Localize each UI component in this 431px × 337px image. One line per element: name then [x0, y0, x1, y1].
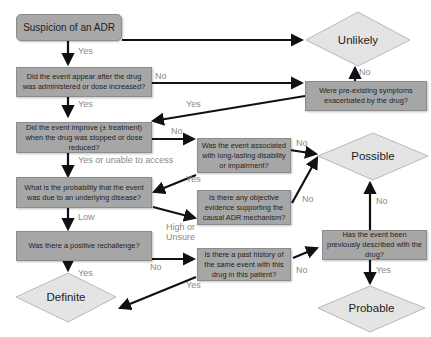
temporal-question-box: Did the event appear after the drug was …	[16, 67, 152, 97]
start-node-text: Suspicion of an ADR	[23, 23, 115, 33]
rechallenge-question-text: Was there a positive rechallenge?	[28, 241, 139, 251]
history-question-text: Is there a past history of the same even…	[201, 250, 287, 280]
definite-outcome: Definite	[16, 287, 116, 307]
label-longlasting-no: No	[296, 138, 308, 148]
described-question-box: Has the event been previously described …	[322, 230, 427, 260]
label-longlasting-yes: Yes	[186, 174, 201, 184]
label-objective-no: No	[302, 194, 314, 204]
temporal-question-text: Did the event appear after the drug was …	[20, 72, 148, 92]
label-underlying-low: Low	[78, 212, 95, 222]
label-rechallenge-yes: Yes	[78, 268, 93, 278]
underlying-question-text: What is the probability that the event w…	[20, 183, 148, 203]
arrow-history-to-definite	[120, 277, 196, 308]
history-question-box: Is there a past history of the same even…	[197, 248, 291, 281]
label-history-no: No	[296, 265, 308, 275]
objective-question-box: Is there any objective evidence supporti…	[197, 190, 291, 225]
label-underlying-high: High or Unsure	[166, 222, 200, 242]
objective-question-text: Is there any objective evidence supporti…	[201, 193, 287, 223]
possible-outcome: Possible	[318, 146, 428, 166]
label-dechallenge-yes: Yes or unable to access	[78, 155, 173, 165]
label-preexisting-yes: Yes	[186, 99, 201, 109]
preexisting-question-text: Were pre-existing symptoms exacerbated b…	[309, 86, 423, 106]
label-history-yes: Yes	[186, 280, 201, 290]
dechallenge-question-text: Did the event improve (± treatment) when…	[20, 123, 148, 153]
start-node: Suspicion of an ADR	[16, 14, 122, 41]
arrow-preexisting-to-dechallenge	[153, 96, 305, 121]
dechallenge-question-box: Did the event improve (± treatment) when…	[16, 122, 152, 153]
described-question-text: Has the event been previously described …	[326, 230, 423, 260]
preexisting-question-box: Were pre-existing symptoms exacerbated b…	[305, 81, 427, 111]
probable-outcome: Probable	[318, 298, 425, 318]
underlying-question-box: What is the probability that the event w…	[16, 177, 152, 208]
label-described-no: No	[376, 196, 388, 206]
label-described-yes: Yes	[376, 265, 391, 275]
arrow-underlying-to-objective	[153, 207, 195, 218]
rechallenge-question-box: Was there a positive rechallenge?	[16, 231, 152, 261]
longlasting-question-text: Was the event associated with long-lasti…	[201, 141, 287, 171]
longlasting-question-box: Was the event associated with long-lasti…	[197, 138, 291, 173]
arrow-longlasting-to-possible	[290, 150, 316, 154]
label-temporal-no: No	[155, 71, 167, 81]
label-rechallenge-no: No	[150, 262, 162, 272]
unlikely-outcome: Unlikely	[306, 30, 410, 50]
label-temporal-yes: Yes	[78, 99, 93, 109]
label-start-yes: Yes	[78, 46, 93, 56]
label-preexisting-no: No	[359, 67, 371, 77]
arrow-history-to-described	[293, 248, 317, 258]
label-dechallenge-no: No	[171, 126, 183, 136]
